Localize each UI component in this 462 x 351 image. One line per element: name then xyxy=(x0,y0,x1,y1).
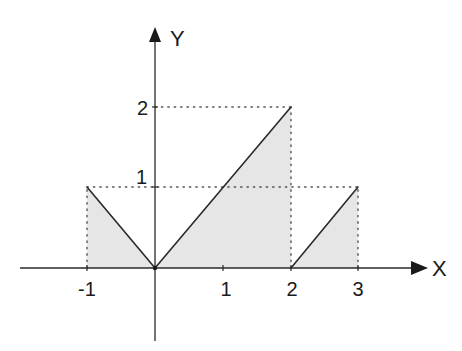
y-tick-label-1: 1 xyxy=(136,166,147,188)
y-axis-arrow-icon xyxy=(149,27,161,42)
x-axis-arrow-icon xyxy=(411,261,428,275)
x-tick-label-2: 2 xyxy=(286,278,297,300)
x-tick-label-neg1: -1 xyxy=(78,278,96,300)
x-axis-label: X xyxy=(432,256,447,281)
y-tick-label-2: 2 xyxy=(137,97,148,119)
y-axis-label: Y xyxy=(170,26,185,51)
function-diagram: Y X -1 1 2 3 1 2 xyxy=(0,0,462,351)
x-tick-label-3: 3 xyxy=(352,278,363,300)
x-tick-label-1: 1 xyxy=(220,278,231,300)
origin-point xyxy=(153,266,157,270)
